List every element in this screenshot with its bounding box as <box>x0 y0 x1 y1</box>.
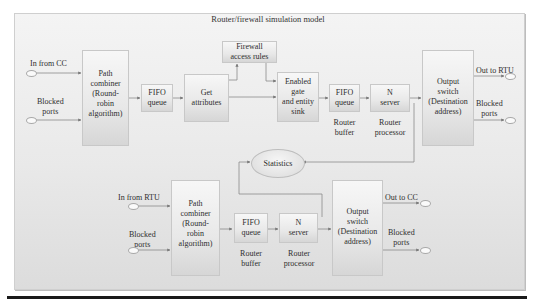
lower-router-buffer-fifo-box: FIFO queue <box>234 213 268 243</box>
router-buffer-fifo-box: FIFO queue <box>329 84 360 112</box>
get-attributes-box: Get attributes <box>184 74 229 122</box>
label-lower-blocked-ports-out: Blocked ports <box>388 228 415 248</box>
enabled-gate-box: Enabled gate and entity sink <box>277 72 319 122</box>
output-switch-box: Output switch (Destination address) <box>422 50 474 146</box>
input-port-icon <box>26 117 37 124</box>
label-blocked-ports-out: Blocked ports <box>476 99 503 119</box>
lower-router-buffer-caption: Router buffer <box>233 249 269 269</box>
router-processor-caption: Router processor <box>366 118 414 138</box>
firewall-access-rules-box: Firewall access rules <box>222 41 277 63</box>
input-port-icon <box>128 247 139 254</box>
lower-n-server-box: N server <box>279 213 318 243</box>
input-port-icon <box>128 203 139 210</box>
input-port-icon <box>26 70 37 77</box>
statistics-node: Statistics <box>251 149 305 178</box>
n-server-box: N server <box>370 84 410 112</box>
router-buffer-caption: Router buffer <box>328 118 361 138</box>
label-out-to-cc: Out to CC <box>385 193 418 203</box>
label-in-from-cc: In from CC <box>30 59 67 69</box>
output-port-icon <box>505 117 516 124</box>
label-blocked-ports-in: Blocked ports <box>37 97 64 117</box>
path-combiner-box: Path combiner (Round- robin algorithm) <box>82 50 129 146</box>
output-port-icon <box>420 200 431 207</box>
fifo-queue-box: FIFO queue <box>141 84 173 112</box>
lower-path-combiner-box: Path combiner (Round- robin algorithm) <box>171 180 220 276</box>
lower-output-switch-box: Output switch (Destination address) <box>332 180 383 276</box>
bottom-rule <box>7 296 527 299</box>
output-port-icon <box>505 73 516 80</box>
diagram-title: Router/firewall simulation model <box>0 14 536 24</box>
lower-router-processor-caption: Router processor <box>274 249 324 269</box>
output-port-icon <box>420 247 431 254</box>
label-in-from-rtu: In from RTU <box>118 193 160 203</box>
